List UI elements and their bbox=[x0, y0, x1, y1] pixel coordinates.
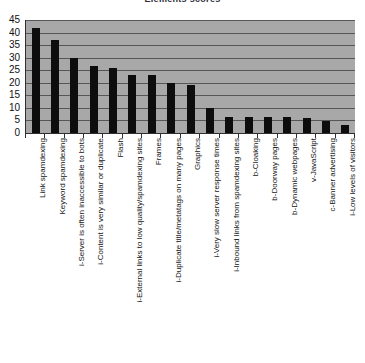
x-tick-label: Graphics bbox=[193, 138, 202, 170]
bar bbox=[283, 117, 291, 133]
y-tick-label: 45 bbox=[9, 15, 20, 25]
y-tick-label: 25 bbox=[9, 65, 20, 75]
x-tick-label: v-JavaScript bbox=[309, 138, 318, 182]
bar bbox=[245, 117, 253, 133]
x-tick-label: i-Duplicate title/metatags on many pages bbox=[174, 138, 183, 283]
x-tick-label: i-Content is very similar or duplicate bbox=[96, 138, 105, 265]
y-tick-label: 30 bbox=[9, 53, 20, 63]
bar bbox=[264, 117, 272, 133]
bar bbox=[206, 108, 214, 133]
x-tick-label: i-Server is often inaccessible to bots bbox=[77, 138, 86, 266]
bar bbox=[303, 118, 311, 133]
bar bbox=[128, 75, 136, 134]
y-tick-label: 5 bbox=[14, 115, 20, 125]
bars-group bbox=[26, 20, 355, 133]
bar bbox=[225, 117, 233, 133]
x-tick-label: i-Very slow server response times bbox=[212, 138, 221, 258]
x-tick-label: Keyword spamdexing bbox=[58, 138, 67, 214]
plot-area bbox=[25, 20, 355, 134]
bar bbox=[32, 28, 40, 133]
bar bbox=[187, 85, 195, 133]
x-tick-label: Flash bbox=[116, 138, 125, 158]
chart-title: Elements scores bbox=[0, 0, 365, 2]
y-tick-label: 20 bbox=[9, 78, 20, 88]
x-tick-label: i-External links to low quality/spamdexi… bbox=[135, 138, 144, 303]
bar bbox=[90, 66, 98, 133]
x-tick-label: i-Inbound links from spamdexing sites bbox=[232, 138, 241, 272]
x-tick-label: Frames bbox=[154, 138, 163, 165]
bar-chart: Elements scores 051015202530354045 Link … bbox=[0, 0, 365, 363]
bar bbox=[109, 68, 117, 133]
y-tick-label: 0 bbox=[14, 128, 20, 138]
x-axis: Link spamdexingKeyword spamdexingi-Serve… bbox=[25, 138, 355, 360]
x-tick-label: i-Low levels of visitors bbox=[348, 138, 357, 216]
x-tick-label: b-Doorway pages bbox=[270, 138, 279, 201]
bar bbox=[51, 40, 59, 133]
x-tick-label: b-Dynamic webpages bbox=[290, 138, 299, 215]
y-tick-label: 15 bbox=[9, 90, 20, 100]
y-tick-label: 40 bbox=[9, 28, 20, 38]
x-tick-label: b-Cloaking bbox=[251, 138, 260, 176]
bar bbox=[341, 125, 349, 133]
y-tick-label: 35 bbox=[9, 40, 20, 50]
y-tick-label: 10 bbox=[9, 103, 20, 113]
y-axis: 051015202530354045 bbox=[0, 20, 22, 133]
x-tick-label: Link spamdexing bbox=[38, 138, 47, 198]
bar bbox=[167, 83, 175, 133]
bar bbox=[70, 58, 78, 133]
x-tick-label: c-Banner advertising bbox=[328, 138, 337, 211]
bar bbox=[322, 121, 330, 133]
bar bbox=[148, 75, 156, 133]
